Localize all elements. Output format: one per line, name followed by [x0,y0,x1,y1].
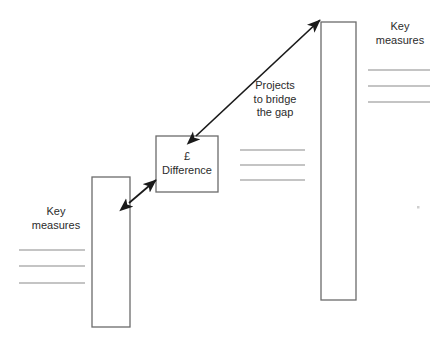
projects-label-line1: Projects [239,79,311,93]
key-measures-right-line2: measures [358,34,442,48]
middle-project-rules [240,150,305,180]
difference-box-label: £ Difference [156,150,218,177]
difference-text: Difference [156,164,218,178]
key-measures-right-label: Key measures [358,20,442,47]
projects-label-line3: the gap [239,106,311,120]
left-measure-rules [19,250,85,283]
bar-to-difference-arrow [129,180,156,203]
current-state-bar [92,177,130,327]
difference-currency-symbol: £ [156,150,218,164]
gap-analysis-diagram: Key measures £ Difference Projects to br… [0,0,447,346]
projects-label-line2: to bridge [239,93,311,107]
target-state-bar [321,22,356,300]
projects-to-bridge-the-gap-label: Projects to bridge the gap [239,79,311,120]
key-measures-left-line1: Key [12,205,100,219]
key-measures-left-line2: measures [12,219,100,233]
key-measures-right-line1: Key [358,20,442,34]
right-measure-rules [368,70,430,102]
scan-artifact-dot [417,206,420,209]
diagram-canvas [0,0,447,346]
key-measures-left-label: Key measures [12,205,100,232]
